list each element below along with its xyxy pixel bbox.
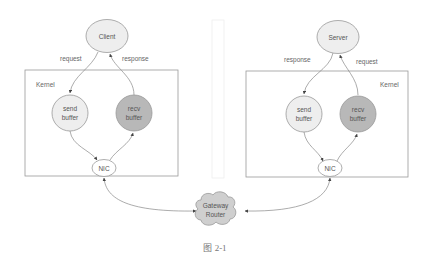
client-label: Client <box>99 33 116 40</box>
server-recv-label-2: buffer <box>350 115 367 122</box>
server-send-label-2: buffer <box>296 115 313 122</box>
client-side: Kernel Client request response send buff… <box>25 20 178 177</box>
client-recv-label-1: recv <box>128 105 141 112</box>
server-request-label: request <box>356 58 378 66</box>
client-send-label-2: buffer <box>62 114 79 121</box>
client-response-label: response <box>122 55 149 63</box>
client-recv-buffer <box>116 95 152 131</box>
client-nic-to-gateway-edge <box>104 178 196 211</box>
client-send-buffer <box>52 95 88 131</box>
client-kernel-label: Kernel <box>36 81 55 88</box>
server-nic-to-gateway-edge <box>245 178 330 211</box>
server-recv-buffer <box>340 96 376 132</box>
client-nic-label: NIC <box>98 165 110 172</box>
client-send-to-nic-edge <box>70 131 97 160</box>
client-recv-label-2: buffer <box>126 114 143 121</box>
gateway-label-2: Router <box>206 211 226 218</box>
server-kernel-label: Kernel <box>380 81 399 88</box>
server-response-label: response <box>284 56 311 64</box>
server-label: Server <box>328 34 348 41</box>
network-diagram: Kernel Client request response send buff… <box>0 0 430 265</box>
figure-caption: 图 2-1 <box>203 243 226 253</box>
center-divider <box>212 20 224 178</box>
server-send-to-nic-edge <box>304 132 323 161</box>
server-recv-label-1: recv <box>352 106 365 113</box>
client-request-label: request <box>60 55 82 63</box>
server-send-label-1: send <box>297 106 311 113</box>
server-nic-to-recv-edge <box>337 134 357 161</box>
server-side: Kernel Server response request send buff… <box>246 21 408 178</box>
gateway-label-1: Gateway <box>203 202 229 210</box>
client-send-label-1: send <box>63 105 77 112</box>
client-nic-to-recv-edge <box>110 133 133 160</box>
server-nic-label: NIC <box>324 165 336 172</box>
server-send-buffer <box>286 96 322 132</box>
